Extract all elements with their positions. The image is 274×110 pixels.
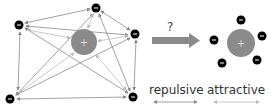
attractive-arrows [20, 14, 128, 92]
transition-arrow-icon [152, 33, 200, 48]
negative-charge [129, 93, 138, 102]
negative-charge [258, 32, 267, 41]
negative-charge [15, 21, 24, 30]
negative-charge [210, 36, 219, 45]
negative-charge [6, 95, 15, 104]
negative-charge [237, 16, 246, 25]
positive-charge-right: + [227, 29, 255, 57]
negative-charge [218, 59, 227, 68]
repulsive-arrows [16, 9, 136, 99]
negative-charge [92, 4, 101, 13]
negative-charge [253, 56, 262, 65]
positive-charge-left: + [71, 29, 97, 55]
svg-text:+: + [80, 37, 88, 48]
repulsive-label: repulsive [149, 83, 204, 97]
negative-charge [131, 30, 140, 39]
question-mark-label: ? [167, 20, 173, 34]
svg-text:+: + [237, 38, 245, 49]
negative-charges-left [6, 4, 140, 104]
attractive-label: attractive [207, 83, 265, 97]
